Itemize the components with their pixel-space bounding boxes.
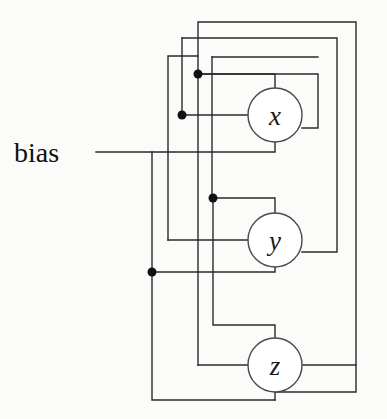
junction-dot-x-lower [178,111,187,120]
wire-y-top-input [213,198,275,213]
wire-outer-feedback-rail [198,22,356,392]
junction-dot-y [209,194,218,203]
node-label-z: z [269,351,281,381]
wire-x-top-input [198,74,275,88]
wire-x-output-to-bias-line [96,142,275,152]
wire-group [96,22,356,400]
node-group: x y z [248,88,302,392]
junction-dot-bias-branch [148,268,157,277]
bias-label: bias [14,137,59,168]
network-svg-canvas: x y z bias [0,0,387,419]
junction-dot-x-upper [194,70,203,79]
network-diagram: x y z bias [0,0,387,419]
wire-y-left-input-riser [168,56,198,240]
node-label-y: y [266,226,281,256]
node-label-x: x [268,101,281,131]
